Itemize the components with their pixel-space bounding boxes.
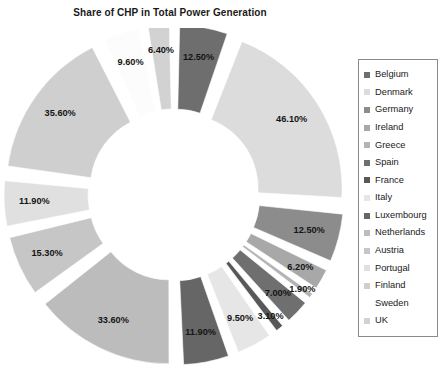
pie-slice-data-label: 9.60% (118, 57, 144, 67)
legend-color-swatch (364, 160, 370, 166)
legend-item-label: Sweden (375, 299, 409, 308)
legend-color-swatch (364, 213, 370, 219)
legend-color-swatch (364, 318, 370, 324)
legend-item[interactable]: Belgium (364, 66, 433, 84)
legend-item-label: Denmark (375, 88, 413, 97)
legend-color-swatch (364, 89, 370, 95)
pie-slice-data-label: 11.90% (185, 327, 216, 337)
legend-item-label: UK (375, 316, 388, 325)
donut-chart-svg: 12.50%46.10%12.50%6.20%1.90%7.00%3.10%9.… (0, 28, 348, 376)
legend-color-swatch (364, 107, 370, 113)
legend-color-swatch (364, 142, 370, 148)
pie-slice-data-label: 1.90% (289, 284, 315, 294)
legend-color-swatch (364, 177, 370, 183)
pie-slice-data-label: 6.40% (148, 45, 174, 55)
legend-item-label: Finland (375, 281, 406, 290)
legend-item-label: Germany (375, 105, 413, 114)
legend-color-swatch (364, 283, 370, 289)
legend-item-label: Luxembourg (375, 211, 427, 220)
legend-color-swatch (364, 265, 370, 271)
legend-item-label: Belgium (375, 70, 409, 79)
legend-item[interactable]: UK (364, 312, 433, 330)
pie-slice-data-label: 6.20% (287, 262, 313, 272)
legend-item[interactable]: Spain (364, 154, 433, 172)
pie-slice-data-label: 35.60% (45, 108, 76, 118)
pie-slice-data-label: 33.60% (98, 315, 129, 325)
legend-item[interactable]: Luxembourg (364, 207, 433, 225)
legend-item[interactable]: Sweden (364, 295, 433, 313)
pie-slice-data-label: 15.30% (32, 248, 63, 258)
legend-item-label: Netherlands (375, 228, 425, 237)
legend-item[interactable]: Ireland (364, 119, 433, 137)
legend-item-label: Portugal (375, 264, 410, 273)
legend-item-label: Spain (375, 158, 399, 167)
pie-slice-data-label: 11.90% (19, 196, 50, 206)
chart-legend: BelgiumDenmarkGermanyIrelandGreeceSpainF… (358, 59, 438, 337)
pie-slice-data-label: 12.50% (294, 225, 325, 235)
legend-color-swatch (364, 230, 370, 236)
donut-chart-plot-area: 12.50%46.10%12.50%6.20%1.90%7.00%3.10%9.… (0, 28, 348, 376)
legend-item[interactable]: Greece (364, 136, 433, 154)
chart-title: Share of CHP in Total Power Generation (0, 7, 340, 18)
legend-item[interactable]: Portugal (364, 260, 433, 278)
legend-item[interactable]: Germany (364, 101, 433, 119)
legend-item[interactable]: Austria (364, 242, 433, 260)
legend-item[interactable]: Italy (364, 189, 433, 207)
legend-item-label: Italy (375, 193, 392, 202)
legend-item-label: Austria (375, 246, 404, 255)
legend-item[interactable]: Denmark (364, 84, 433, 102)
legend-color-swatch (364, 72, 370, 78)
legend-item[interactable]: France (364, 172, 433, 190)
legend-item-label: Greece (375, 141, 406, 150)
pie-slice-data-label: 7.00% (265, 288, 291, 298)
legend-color-swatch (364, 248, 370, 254)
legend-item-label: Ireland (375, 123, 403, 132)
pie-slice-data-label: 12.50% (183, 52, 214, 62)
legend-item[interactable]: Finland (364, 277, 433, 295)
pie-slice-data-label: 46.10% (276, 114, 307, 124)
legend-color-swatch (364, 125, 370, 131)
pie-slice-data-label: 9.50% (227, 313, 253, 323)
pie-slices-group (4, 28, 343, 365)
legend-item[interactable]: Netherlands (364, 224, 433, 242)
legend-color-swatch (364, 301, 370, 307)
pie-slice-data-label: 3.10% (258, 311, 284, 321)
legend-item-label: France (375, 176, 404, 185)
legend-color-swatch (364, 195, 370, 201)
